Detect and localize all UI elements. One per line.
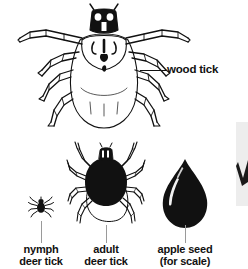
tick-size-comparison-figure: wood tick nymph deer tic <box>0 0 248 269</box>
caption-seed-line2: (for scale) <box>144 256 226 268</box>
caption-apple-seed: apple seed (for scale) <box>144 244 226 267</box>
wood-tick-icon <box>18 4 190 132</box>
leader-line-adult <box>106 225 107 243</box>
leader-line-wood-tick <box>140 70 166 71</box>
caption-adult-line2: deer tick <box>66 256 146 268</box>
leader-line-apple-seed <box>185 225 186 243</box>
nymph-deer-tick-icon <box>27 192 55 220</box>
caption-adult-line1: adult <box>66 244 146 256</box>
cropped-adjacent-graphic <box>236 122 248 206</box>
caption-wood-tick: wood tick <box>167 63 218 75</box>
apple-seed-icon <box>157 158 213 230</box>
caption-adult-deer-tick: adult deer tick <box>66 244 146 267</box>
adult-deer-tick-icon <box>66 140 146 228</box>
leader-line-nymph <box>41 221 42 243</box>
caption-seed-line1: apple seed <box>144 244 226 256</box>
